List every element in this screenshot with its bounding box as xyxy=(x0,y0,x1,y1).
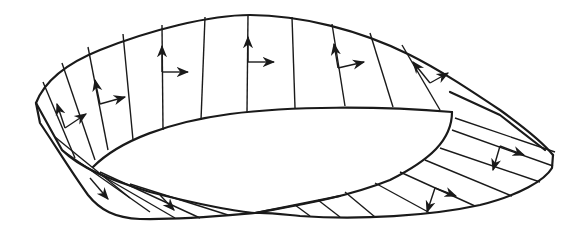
mobius-strip-diagram xyxy=(0,0,586,233)
strip-left-outer-edge xyxy=(36,103,255,219)
strip-bottom-under-edge xyxy=(255,196,340,213)
strip-rulings xyxy=(43,15,555,218)
strip-inner-right-edge xyxy=(255,112,452,213)
strip-left-twist-edge xyxy=(36,103,255,213)
mobius-strip-figure xyxy=(0,0,586,233)
strip-inner-top-edge xyxy=(93,108,452,167)
